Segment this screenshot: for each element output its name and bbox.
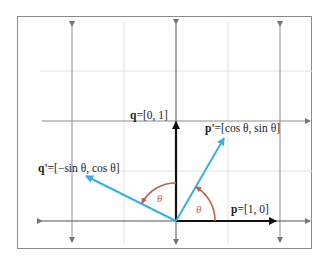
label-q-prime-name: q' xyxy=(38,162,48,174)
rotation-diagram: q=[0, 1] p'=[cos θ, sin θ] q'=[−sin θ, c… xyxy=(0,0,329,261)
label-q: q=[0, 1] xyxy=(130,110,168,122)
label-q-prime-value: =[−sin θ, cos θ] xyxy=(48,162,120,174)
label-q-prime: q'=[−sin θ, cos θ] xyxy=(38,163,120,175)
angle-label-p: θ xyxy=(196,204,201,215)
label-p-value: =[1, 0] xyxy=(237,203,268,215)
label-q-value: =[0, 1] xyxy=(136,109,167,121)
angle-label-q: θ xyxy=(157,193,162,204)
label-p-prime: p'=[cos θ, sin θ] xyxy=(205,123,280,135)
label-p-prime-name: p' xyxy=(205,122,215,134)
label-p: p=[1, 0] xyxy=(231,204,269,216)
vector-q-prime xyxy=(86,176,176,221)
label-p-prime-value: =[cos θ, sin θ] xyxy=(215,122,280,134)
